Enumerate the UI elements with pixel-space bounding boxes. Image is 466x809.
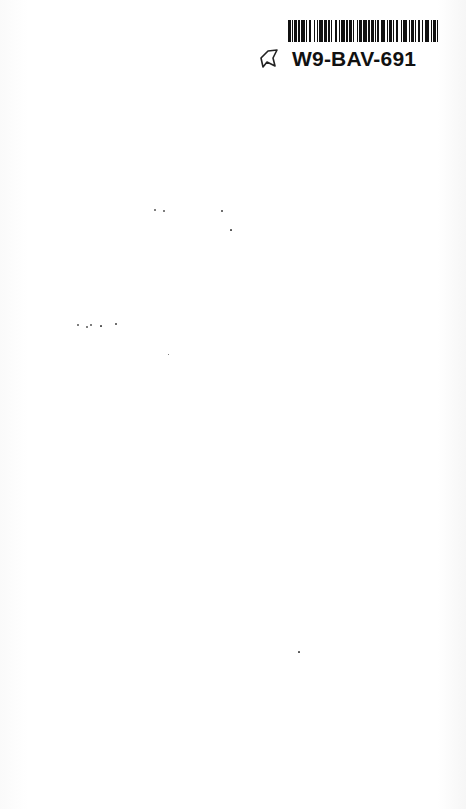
barcode-id-text: W9-BAV-691 <box>292 47 416 71</box>
scan-speck <box>154 209 157 212</box>
scan-speck <box>90 324 92 326</box>
scan-speck <box>230 229 231 230</box>
barcode-id-row: W9-BAV-691 <box>258 46 416 72</box>
scan-speck <box>115 323 116 324</box>
bookmark-icon <box>258 49 280 69</box>
scan-speck <box>163 210 165 212</box>
scan-speck <box>168 354 169 355</box>
scan-speck <box>86 326 89 329</box>
barcode-gap <box>438 20 439 42</box>
scan-speck <box>100 325 101 326</box>
barcode-bars <box>288 20 440 42</box>
scanned-page: W9-BAV-691 <box>0 0 466 809</box>
library-barcode-sticker: W9-BAV-691 <box>268 20 458 76</box>
scan-speck <box>221 210 222 211</box>
scan-speck <box>298 651 299 652</box>
scan-speck <box>77 324 79 326</box>
